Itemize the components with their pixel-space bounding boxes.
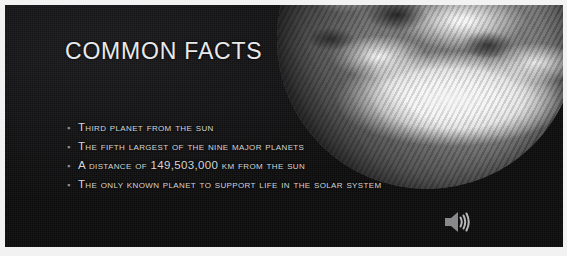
list-item-label: Third planet from the sun (78, 121, 214, 133)
list-item-label: The only known planet to support life in… (78, 178, 381, 190)
slide-frame: COMMON FACTS ▪ Third planet from the sun… (0, 0, 567, 256)
bullet-marker-icon: ▪ (67, 181, 78, 190)
list-item: ▪ A distance of 149,503,000 km from the … (67, 159, 381, 178)
bullet-marker-icon: ▪ (67, 162, 78, 171)
list-item: ▪ The fifth largest of the nine major pl… (67, 140, 381, 159)
bullet-marker-icon: ▪ (67, 143, 78, 152)
bullet-marker-icon: ▪ (67, 124, 78, 133)
slide-canvas[interactable]: COMMON FACTS ▪ Third planet from the sun… (5, 5, 563, 247)
speaker-icon[interactable] (442, 208, 472, 236)
page-title: COMMON FACTS (65, 38, 262, 65)
list-item: ▪ The only known planet to support life … (67, 178, 381, 197)
bullet-list: ▪ Third planet from the sun ▪ The fifth … (67, 121, 381, 197)
list-item-label: The fifth largest of the nine major plan… (78, 140, 304, 152)
list-item-label: A distance of 149,503,000 km from the su… (78, 159, 305, 171)
list-item: ▪ Third planet from the sun (67, 121, 381, 140)
